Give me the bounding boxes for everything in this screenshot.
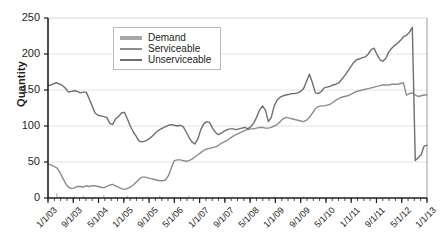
legend-swatch-serviceable (120, 48, 142, 50)
legend-item-unserviceable: Unserviceable (120, 54, 211, 65)
y-axis-tick-label: 150 (0, 83, 40, 95)
y-axis-tick-label: 0 (0, 191, 40, 203)
chart-legend: Demand Serviceable Unserviceable (113, 27, 221, 70)
chart-container: Quantity 050100150200250 1/1/039/1/035/1… (0, 0, 441, 246)
legend-swatch-demand (120, 36, 142, 40)
legend-label-demand: Demand (148, 32, 186, 43)
y-axis-tick-label: 50 (0, 155, 40, 167)
y-axis-tick-label: 250 (0, 11, 40, 23)
legend-item-demand: Demand (120, 32, 211, 43)
legend-swatch-unserviceable (120, 59, 142, 61)
legend-label-serviceable: Serviceable (148, 43, 200, 54)
y-axis-tick-label: 200 (0, 47, 40, 59)
legend-label-unserviceable: Unserviceable (148, 54, 211, 65)
y-axis-tick-label: 100 (0, 119, 40, 131)
legend-item-serviceable: Serviceable (120, 43, 211, 54)
